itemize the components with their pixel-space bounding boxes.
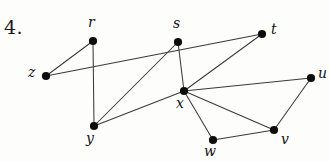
graph-vertex-s: [174, 38, 182, 46]
graph-vertex-y: [90, 122, 98, 130]
graph-edge-x-t: [184, 34, 262, 91]
vertex-label-x: x: [176, 95, 184, 111]
graph-edge-z-r: [46, 41, 93, 76]
graph-edge-x-v: [184, 91, 274, 130]
graph-edge-x-w: [184, 91, 213, 140]
vertex-label-v: v: [281, 131, 289, 147]
graph-edge-x-u: [184, 78, 311, 91]
vertex-label-y: y: [86, 130, 94, 146]
vertex-label-t: t: [271, 21, 277, 37]
graph-edge-r-y: [93, 41, 94, 126]
vertex-label-w: w: [204, 143, 216, 159]
graph-canvas: [0, 0, 329, 162]
graph-vertex-x: [180, 87, 188, 95]
vertex-label-z: z: [28, 64, 35, 80]
graph-edge-w-v: [213, 130, 274, 140]
graph-edge-z-t: [46, 34, 262, 76]
graph-edge-v-u: [274, 78, 311, 130]
graph-vertex-v: [270, 126, 278, 134]
graph-vertex-t: [258, 30, 266, 38]
edge-layer: [46, 34, 311, 140]
graph-vertex-r: [89, 37, 97, 45]
vertex-label-s: s: [173, 15, 180, 31]
vertex-label-r: r: [88, 14, 95, 30]
graph-edge-x-y: [94, 91, 184, 126]
graph-edge-s-y: [94, 42, 178, 126]
vertex-label-u: u: [318, 65, 327, 81]
graph-vertex-z: [42, 72, 50, 80]
graph-vertex-u: [307, 74, 315, 82]
graph-figure: 4. rstzuxyvw: [0, 0, 329, 162]
